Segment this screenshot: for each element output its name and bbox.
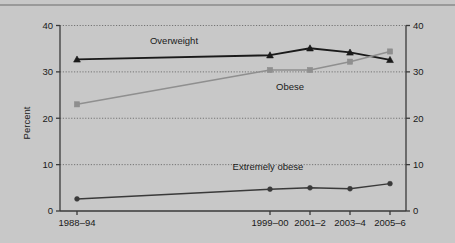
- y-tick-label-right: 10: [413, 159, 424, 170]
- x-tick-label: 2003–4: [334, 217, 366, 228]
- x-axis-tick-labels: 1988–941999–002001–22003–42005–6: [59, 217, 406, 228]
- x-tick-label: 2005–6: [374, 217, 406, 228]
- series-annotation-extremely-obese: Extremely obese: [233, 161, 304, 172]
- y-tick-label-left: 10: [42, 159, 53, 170]
- series-annotation-obese: Obese: [276, 81, 304, 92]
- series-line-extremely-obese: [77, 184, 390, 199]
- data-point-extremely-obese: [388, 181, 393, 186]
- y-axis-title: Percent: [21, 106, 32, 139]
- series-markers: [74, 45, 394, 202]
- y-tick-label-right: 20: [413, 113, 424, 124]
- series-lines: [77, 48, 390, 199]
- data-point-extremely-obese: [268, 187, 273, 192]
- data-point-extremely-obese: [75, 197, 80, 202]
- series-line-overweight: [77, 48, 390, 60]
- data-point-extremely-obese: [308, 185, 313, 190]
- x-tick-label: 1988–94: [59, 217, 96, 228]
- grid-lines: [60, 26, 406, 165]
- series-line-obese: [77, 51, 390, 104]
- y-tick-label-left: 0: [48, 205, 53, 216]
- y-tick-label-right: 0: [413, 205, 418, 216]
- x-tick-label: 2001–2: [294, 217, 326, 228]
- data-point-obese: [347, 59, 352, 64]
- y-tick-label-left: 40: [42, 20, 53, 31]
- y-tick-label-right: 40: [413, 20, 424, 31]
- chart-figure: 010203040 010203040 1988–941999–002001–2…: [0, 0, 455, 243]
- y-axis-tick-labels-right: 010203040: [413, 20, 424, 217]
- series-annotation-overweight: Overweight: [150, 35, 198, 46]
- y-axis-tick-labels-left: 010203040: [42, 20, 53, 217]
- y-tick-label-left: 30: [42, 66, 53, 77]
- x-tick-label: 1999–00: [252, 217, 289, 228]
- y-tick-label-right: 30: [413, 66, 424, 77]
- data-point-obese: [267, 67, 272, 72]
- data-point-obese: [307, 67, 312, 72]
- data-point-obese: [74, 102, 79, 107]
- data-point-obese: [387, 49, 392, 54]
- line-chart: 010203040 010203040 1988–941999–002001–2…: [0, 0, 455, 243]
- data-point-extremely-obese: [348, 186, 353, 191]
- y-tick-label-left: 20: [42, 113, 53, 124]
